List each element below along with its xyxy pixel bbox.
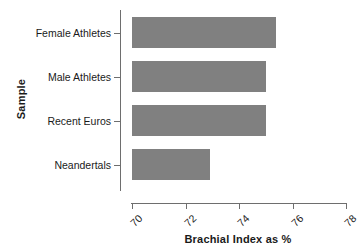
bar-chart: Female AthletesMale AthletesRecent Euros… — [0, 0, 362, 252]
x-tick — [293, 203, 294, 209]
bar-male-athletes — [132, 61, 266, 92]
category-tick — [114, 121, 120, 122]
x-tick-label-74: 74 — [235, 212, 252, 229]
x-tick — [346, 203, 347, 209]
category-tick — [114, 77, 120, 78]
x-tick — [239, 203, 240, 209]
x-tick — [186, 203, 187, 209]
plot-area: Female AthletesMale AthletesRecent Euros… — [0, 0, 362, 252]
category-label-female-athletes: Female Athletes — [36, 27, 111, 39]
category-label-neandertals: Neandertals — [54, 159, 111, 171]
category-label-male-athletes: Male Athletes — [48, 71, 111, 83]
x-tick — [132, 203, 133, 209]
x-tick-label-70: 70 — [128, 212, 145, 229]
category-tick — [114, 33, 120, 34]
bar-neandertals — [132, 149, 210, 180]
bar-female-athletes — [132, 17, 276, 48]
bar-recent-euros — [132, 105, 266, 136]
x-tick-label-72: 72 — [182, 212, 199, 229]
x-axis-title: Brachial Index as % — [131, 233, 345, 245]
x-tick-label-78: 78 — [342, 212, 359, 229]
y-axis-line — [120, 10, 121, 191]
y-axis-title: Sample — [15, 9, 29, 189]
x-tick-label-76: 76 — [289, 212, 306, 229]
category-tick — [114, 165, 120, 166]
category-label-recent-euros: Recent Euros — [47, 115, 111, 127]
